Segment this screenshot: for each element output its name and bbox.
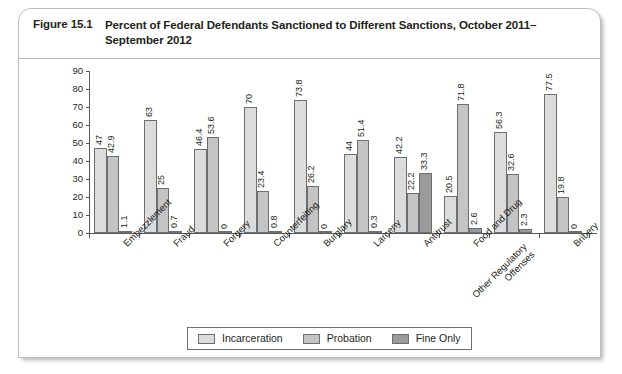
- bar: [107, 156, 120, 233]
- bar-value-label: 56.3: [495, 111, 504, 129]
- bar: [257, 191, 270, 233]
- y-axis-tick-label: 90: [57, 66, 83, 75]
- bar-group: 77.519.80: [544, 71, 582, 233]
- bar-value-label: 42.9: [107, 135, 116, 153]
- x-axis-category-label: Other RegulatoryOffenses: [453, 241, 536, 324]
- bar-group: 7023.40.8: [244, 71, 282, 233]
- chart-plot-area: 0102030405060708090 4742.91.163250.746.4…: [19, 59, 600, 358]
- x-axis-category-label: Antitrust: [421, 241, 429, 249]
- bar-value-label: 0: [320, 224, 329, 229]
- bar: [407, 193, 420, 233]
- legend-label-incarceration: Incarceration: [222, 333, 283, 344]
- figure-frame: Figure 15.1Percent of Federal Defendants…: [18, 8, 601, 358]
- x-axis-tick-mark: [539, 234, 540, 238]
- bar: [194, 149, 207, 233]
- bar-value-label: 2.6: [470, 213, 479, 226]
- legend-label-probation: Probation: [327, 333, 372, 344]
- bar-value-label: 0: [220, 224, 229, 229]
- legend-swatch-incarceration: [198, 334, 215, 344]
- y-axis-tick-label: 60: [57, 120, 83, 129]
- bar-value-label: 42.2: [395, 137, 404, 155]
- bar-value-label: 0.8: [270, 216, 279, 229]
- bar-value-label: 23.4: [257, 170, 266, 188]
- legend-label-fine-only: Fine Only: [416, 333, 461, 344]
- bar-value-label: 46.4: [195, 129, 204, 147]
- x-axis-category-label: Embezzlement: [121, 241, 129, 249]
- bar-group: 4742.91.1: [94, 71, 132, 233]
- bar-value-label: 77.5: [545, 73, 554, 91]
- bar: [357, 140, 370, 233]
- legend-swatch-fine-only: [392, 334, 409, 344]
- bar-value-label: 32.6: [507, 154, 516, 172]
- bar: [244, 107, 257, 233]
- bar-value-label: 71.8: [457, 83, 466, 101]
- y-axis-tick-label: 80: [57, 84, 83, 93]
- bar-value-label: 63: [145, 107, 154, 117]
- y-axis-tick-label: 40: [57, 156, 83, 165]
- y-axis-tick-label: 20: [57, 192, 83, 201]
- x-axis-category-label: Bribery: [571, 241, 579, 249]
- bar-group: 42.222.233.3: [394, 71, 432, 233]
- bar-value-label: 26.2: [307, 165, 316, 183]
- bar-value-label: 1.1: [120, 216, 129, 229]
- y-axis-tick-label: 10: [57, 210, 83, 219]
- bar: [544, 94, 557, 234]
- legend-item-fine-only: Fine Only: [392, 333, 461, 344]
- bar-group: 46.453.60: [194, 71, 232, 233]
- page-title: Percent of Federal Defendants Sanctioned…: [105, 18, 575, 48]
- bar: [94, 148, 107, 233]
- bar-value-label: 0: [570, 224, 579, 229]
- y-axis-tick-label: 30: [57, 174, 83, 183]
- bar-value-label: 2.3: [520, 213, 529, 226]
- x-axis-category-label: Burglary: [321, 241, 329, 249]
- legend-swatch-probation: [303, 334, 320, 344]
- bar-value-label: 19.8: [557, 177, 566, 195]
- x-axis-category-label: Forgery: [221, 241, 229, 249]
- bar-group: 4451.40.3: [344, 71, 382, 233]
- figure-number: Figure 15.1: [33, 18, 105, 30]
- chart-legend: Incarceration Probation Fine Only: [187, 327, 472, 350]
- y-axis-tick-label: 70: [57, 102, 83, 111]
- bar-value-label: 53.6: [207, 116, 216, 134]
- bar-value-label: 73.8: [295, 80, 304, 98]
- x-axis-category-label: Fraud: [171, 241, 179, 249]
- x-axis-category-label: Counterfeiting: [271, 241, 279, 249]
- bar: [207, 137, 220, 233]
- bar-value-label: 70: [245, 94, 254, 104]
- bar: [419, 173, 432, 233]
- y-axis-tick-label: 50: [57, 138, 83, 147]
- bar-value-label: 22.2: [407, 173, 416, 191]
- bar-value-label: 44: [345, 141, 354, 151]
- bar-group: 20.571.82.6: [444, 71, 482, 233]
- bar: [457, 104, 470, 233]
- bar: [519, 229, 532, 233]
- bar-value-label: 20.5: [445, 176, 454, 194]
- y-axis-tick-label: 0: [57, 228, 83, 237]
- title-row: Figure 15.1Percent of Federal Defendants…: [33, 18, 588, 48]
- x-axis-category-label: Food and Drug: [471, 241, 479, 249]
- legend-item-incarceration: Incarceration: [198, 333, 283, 344]
- bar-value-label: 47: [95, 135, 104, 145]
- x-axis-tick-mark: [89, 234, 90, 238]
- figure-screenshot: Figure 15.1Percent of Federal Defendants…: [0, 0, 622, 374]
- bar-value-label: 0.3: [370, 216, 379, 229]
- bar: [557, 197, 570, 233]
- x-axis-category-label: Larceny: [371, 241, 379, 249]
- bar-value-label: 25: [157, 175, 166, 185]
- bar-value-label: 0.7: [170, 216, 179, 229]
- legend-item-probation: Probation: [303, 333, 372, 344]
- figure-title-bar: Figure 15.1Percent of Federal Defendants…: [19, 9, 600, 59]
- bar-value-label: 33.3: [420, 153, 429, 171]
- bar-value-label: 51.4: [357, 120, 366, 138]
